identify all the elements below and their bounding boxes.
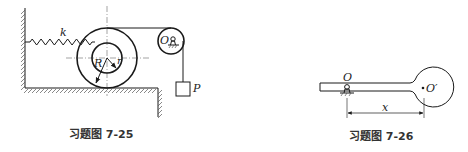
dimension-label: x [382,101,389,114]
hatch-mark [21,86,25,90]
hatch-mark [21,46,25,50]
hatch-mark [124,89,128,93]
hatch-mark [140,89,144,93]
caption-7-26: 习题图 7-26 [349,130,414,143]
hatch-mark [21,42,25,46]
hatch-mark [40,89,44,93]
hatch-mark [158,90,162,94]
hatch-mark [48,89,52,93]
hatch-mark [84,89,88,93]
hatch-mark [158,106,162,110]
pivot-label: O [343,71,352,84]
weight-label: P [192,82,201,95]
hatch-mark [44,89,48,93]
hatch-mark [148,89,152,93]
hatch-mark [60,89,64,93]
hatch-mark [92,89,96,93]
hatch-mark [21,22,25,26]
hatch-mark [21,14,25,18]
hatch-mark [36,89,40,93]
hatch-mark [28,89,32,93]
hatch-mark [21,30,25,34]
weight-block [176,82,190,96]
hatch-mark [21,54,25,58]
hatch-mark [68,89,72,93]
hatch-mark [136,89,140,93]
hatch-mark [21,26,25,30]
hatch-mark [64,89,68,93]
hatch-mark [128,89,132,93]
hatch-mark [21,74,25,78]
hatch-mark [80,89,84,93]
hatch-mark [21,62,25,66]
caption-7-25: 习题图 7-25 [69,128,133,141]
hatch-mark [108,89,112,93]
floor [24,88,158,93]
hatch-mark [24,89,28,93]
figure-7-26: O O′ x 习题图 7-26 [320,67,454,143]
spring [25,39,95,45]
hatch-mark [88,89,92,93]
hatch-mark [32,89,36,93]
hatch-mark [132,89,136,93]
hatch-mark [52,89,56,93]
diagram-canvas: k R r O P 习题图 7-25 [0,0,468,152]
left-wall [21,8,25,90]
hatch-mark [158,114,162,118]
hatch-mark [56,89,60,93]
hatch-mark [21,50,25,54]
hatch-mark [21,58,25,62]
ball-center-label: O′ [426,82,438,95]
hatch-mark [72,89,76,93]
step-wall [158,88,162,118]
figure-7-25: k R r O P 习题图 7-25 [21,6,201,141]
hatch-mark [21,78,25,82]
hatch-mark [152,89,156,93]
hatch-mark [158,98,162,102]
hatch-mark [21,66,25,70]
hatch-mark [21,70,25,74]
hatch-mark [21,10,25,14]
spring-label: k [60,26,67,39]
hatch-mark [21,34,25,38]
pulley-label: O [160,34,169,47]
hatch-mark [76,89,80,93]
radius-R-label: R [93,57,102,70]
hatch-mark [144,89,148,93]
hatch-mark [116,89,120,93]
hatch-mark [96,89,100,93]
hatch-mark [158,110,162,114]
hatch-mark [100,89,104,93]
hatch-mark [112,89,116,93]
hatch-mark [120,89,124,93]
hatch-mark [21,18,25,22]
hatch-mark [21,82,25,86]
hatch-mark [21,38,25,42]
hatch-mark [158,102,162,106]
pivot-support [340,85,354,96]
hatch-mark [104,89,108,93]
radius-r-arrow [107,58,116,68]
ball-center-dot [422,87,425,90]
hatch-mark [158,94,162,98]
